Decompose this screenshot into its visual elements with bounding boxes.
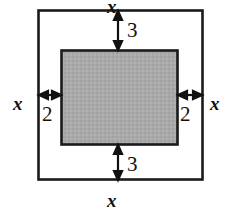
- geometry-figure: x x x x 3 3 2 2: [0, 0, 230, 221]
- side-label-left: x: [13, 94, 23, 113]
- inner-shaded-rectangle: [62, 51, 178, 145]
- gap-label-right: 2: [180, 104, 191, 125]
- gap-label-left: 2: [42, 104, 53, 125]
- side-label-bottom: x: [107, 191, 117, 210]
- side-label-right: x: [210, 94, 220, 113]
- figure-canvas: [0, 0, 230, 221]
- gap-label-top: 3: [127, 20, 138, 41]
- side-label-top: x: [107, 0, 117, 16]
- gap-label-bottom: 3: [127, 154, 138, 175]
